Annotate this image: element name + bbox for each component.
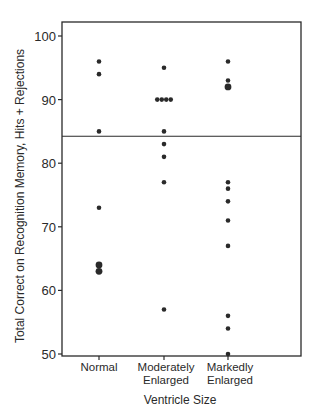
- y-axis: 5060708090100: [34, 29, 62, 362]
- data-point: [97, 59, 102, 64]
- data-point: [168, 97, 173, 102]
- data-point: [226, 244, 231, 249]
- data-point: [226, 218, 231, 223]
- data-point: [226, 326, 231, 331]
- y-tick-label: 80: [42, 156, 56, 171]
- y-axis-label: Total Correct on Recognition Memory, Hit…: [13, 49, 27, 343]
- data-point: [162, 66, 167, 71]
- data-points: [96, 59, 232, 356]
- data-point: [226, 199, 231, 204]
- data-point: [226, 180, 231, 185]
- data-point: [162, 155, 167, 160]
- data-point: [162, 142, 167, 147]
- data-point: [226, 314, 231, 319]
- x-tick-label: Normal: [80, 361, 117, 373]
- y-tick-label: 70: [42, 220, 56, 235]
- plot-frame: [62, 22, 301, 356]
- data-point: [162, 129, 167, 134]
- data-point: [97, 129, 102, 134]
- data-point: [225, 83, 232, 90]
- data-point: [96, 268, 103, 275]
- scatter-chart: 5060708090100 NormalModeratelyEnlargedMa…: [0, 0, 314, 419]
- x-tick-label: Enlarged: [207, 374, 253, 386]
- x-tick-label: Enlarged: [143, 374, 189, 386]
- x-tick-label: Markedly: [207, 361, 254, 373]
- data-point: [155, 97, 160, 102]
- data-point: [162, 307, 167, 312]
- data-point: [96, 262, 103, 269]
- data-point: [97, 72, 102, 77]
- y-tick-label: 100: [34, 29, 56, 44]
- data-point: [226, 352, 231, 357]
- data-point: [164, 97, 169, 102]
- data-point: [226, 78, 231, 83]
- y-tick-label: 90: [42, 93, 56, 108]
- x-tick-label: Moderately: [138, 361, 195, 373]
- data-point: [226, 59, 231, 64]
- x-axis: NormalModeratelyEnlargedMarkedlyEnlarged: [80, 356, 253, 386]
- plot-border: [62, 22, 301, 356]
- data-point: [162, 180, 167, 185]
- y-tick-label: 50: [42, 347, 56, 362]
- x-axis-label: Ventricle Size: [144, 393, 217, 407]
- data-point: [159, 97, 164, 102]
- y-tick-label: 60: [42, 283, 56, 298]
- data-point: [97, 205, 102, 210]
- data-point: [226, 186, 231, 191]
